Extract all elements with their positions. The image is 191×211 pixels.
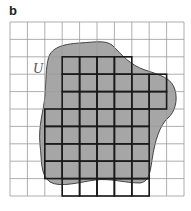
region-u (40, 42, 177, 185)
set-label-u: U (33, 61, 44, 76)
grid-diagram: U (0, 0, 191, 211)
inner-square (97, 179, 114, 196)
